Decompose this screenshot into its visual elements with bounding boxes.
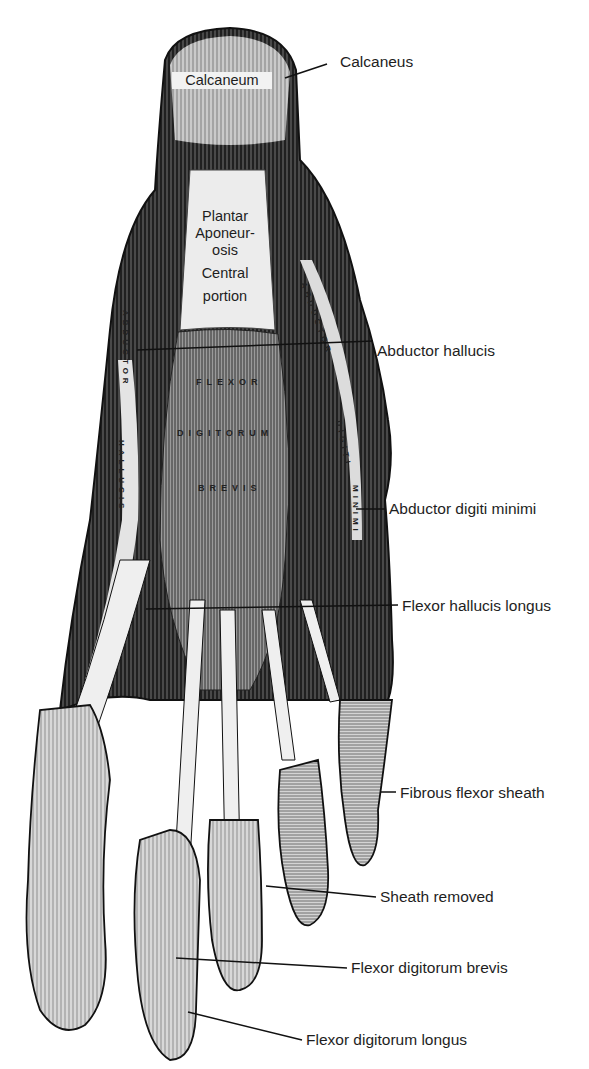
label-calcaneum: Calcaneum	[172, 72, 272, 89]
foot-illustration	[0, 0, 589, 1069]
label-flexor-hallucis-longus: Flexor hallucis longus	[402, 597, 551, 615]
label-abductor-hallucis: Abductor hallucis	[377, 342, 495, 360]
toes	[27, 700, 393, 1060]
aponeurosis-line-1: Plantar	[185, 208, 265, 225]
inscription-flexor: FLEXOR	[196, 377, 263, 387]
fourth-toe	[278, 760, 328, 925]
label-flexor-digitorum-longus: Flexor digitorum longus	[306, 1031, 467, 1049]
aponeurosis-line-3: osis	[185, 242, 265, 259]
inscription-brevis: BREVIS	[198, 483, 262, 493]
aponeurosis-line-4: Central	[185, 265, 265, 282]
inscription-hallucis: HALLUCIS	[117, 440, 126, 512]
inscription-minimi: MINIMI	[351, 485, 360, 535]
aponeurosis-line-2: Aponeur-	[185, 225, 265, 242]
inscription-digitorum: DIGITORUM	[177, 428, 273, 438]
label-plantar-aponeurosis: Plantar Aponeur- osis Central portion	[185, 208, 265, 305]
great-toe	[27, 705, 111, 1030]
fifth-toe	[339, 700, 392, 865]
inscription-abductor-left: ABDUCTOR	[121, 310, 130, 388]
label-flexor-digitorum-brevis: Flexor digitorum brevis	[351, 959, 508, 977]
label-fibrous-flexor-sheath: Fibrous flexor sheath	[400, 784, 545, 802]
second-toe	[134, 830, 200, 1060]
label-abductor-digiti-minimi: Abductor digiti minimi	[389, 500, 536, 518]
third-toe	[208, 820, 262, 990]
calcaneum-region	[170, 36, 290, 145]
calcaneum-text: Calcaneum	[185, 72, 258, 88]
label-sheath-removed: Sheath removed	[380, 888, 494, 906]
label-calcaneus: Calcaneus	[340, 53, 413, 71]
aponeurosis-line-5: portion	[185, 288, 265, 305]
